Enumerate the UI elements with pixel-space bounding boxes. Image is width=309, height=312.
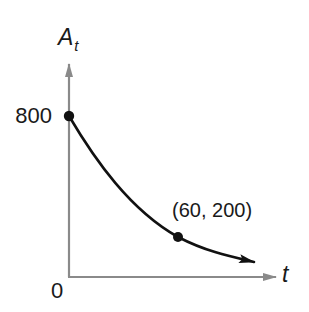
point-initial	[64, 111, 74, 121]
y-tick-800: 800	[15, 105, 52, 127]
x-axis-label: t	[282, 263, 288, 286]
y-axis-label: At	[58, 26, 78, 49]
decay-curve	[69, 116, 254, 262]
decay-chart	[0, 0, 309, 312]
y-axis-label-subscript: t	[74, 37, 78, 54]
origin-label: 0	[51, 280, 63, 302]
point-annotation: (60, 200)	[172, 200, 252, 220]
point-60-200	[173, 232, 183, 242]
